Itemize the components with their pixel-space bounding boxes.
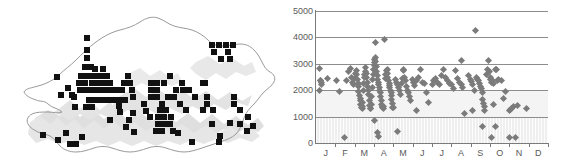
x-axis-tick — [509, 144, 510, 147]
distribution-map-panel — [0, 0, 280, 165]
gridline — [316, 90, 548, 91]
map-occurrence-marker — [170, 128, 176, 134]
map-occurrence-marker — [161, 114, 167, 120]
map-occurrence-marker — [189, 139, 195, 145]
map-occurrence-marker — [55, 137, 61, 143]
gridline — [316, 37, 548, 38]
x-tick-label: O — [493, 148, 507, 158]
map-occurrence-marker — [218, 56, 224, 62]
x-axis-tick — [529, 144, 530, 147]
y-tick-label: 5000 — [283, 7, 313, 16]
map-occurrence-marker — [210, 107, 216, 113]
x-axis-tick — [374, 144, 375, 147]
map-occurrence-marker — [123, 124, 129, 130]
map-occurrence-marker — [129, 87, 135, 93]
map-occurrence-marker — [54, 74, 60, 80]
map-occurrence-marker — [223, 42, 229, 48]
x-tick-label: S — [473, 148, 487, 158]
map-occurrence-marker — [58, 92, 64, 98]
scatter-point — [472, 27, 479, 34]
scatter-point — [316, 65, 323, 72]
figure-root: 010002000300040005000 JFMAMJJASOND — [0, 0, 561, 165]
map-occurrence-marker — [216, 139, 222, 145]
map-occurrence-marker — [130, 94, 136, 100]
map-occurrence-marker — [117, 109, 123, 115]
map-occurrence-marker — [227, 56, 233, 62]
x-axis-tick — [451, 144, 452, 147]
map-occurrence-marker — [130, 110, 136, 116]
map-occurrence-marker — [122, 97, 128, 103]
scatter-point — [333, 77, 340, 84]
map-occurrence-marker — [167, 73, 173, 79]
map-occurrence-marker — [250, 123, 256, 129]
map-occurrence-marker — [84, 47, 90, 53]
map-occurrence-marker — [84, 55, 90, 61]
map-occurrence-marker — [92, 66, 98, 72]
map-occurrence-marker — [167, 121, 173, 127]
map-occurrence-marker — [72, 104, 78, 110]
x-tick-label: A — [377, 148, 391, 158]
map-occurrence-marker — [230, 42, 236, 48]
map-occurrence-marker — [204, 94, 210, 100]
map-occurrence-marker — [209, 121, 215, 127]
map-occurrence-marker — [161, 80, 167, 86]
map-occurrence-marker — [73, 141, 79, 147]
map-occurrence-marker — [200, 107, 206, 113]
x-tick-label: A — [454, 148, 468, 158]
bhutan-map-svg — [0, 0, 280, 165]
x-axis-tick — [548, 144, 549, 147]
map-occurrence-marker — [231, 94, 237, 100]
x-tick-label: J — [415, 148, 429, 158]
x-tick-label: J — [435, 148, 449, 158]
map-occurrence-marker — [237, 121, 243, 127]
map-occurrence-marker — [131, 129, 137, 135]
scatter-point — [436, 81, 443, 88]
map-occurrence-marker — [84, 35, 90, 41]
map-occurrence-marker — [104, 73, 110, 79]
map-occurrence-marker — [65, 85, 71, 91]
x-axis-tick — [471, 144, 472, 147]
y-axis-tick-labels: 010002000300040005000 — [282, 0, 313, 165]
gridline — [316, 117, 548, 118]
map-occurrence-marker — [227, 120, 233, 126]
map-occurrence-marker — [141, 101, 147, 107]
map-occurrence-marker — [154, 87, 160, 93]
elevation-scatter-panel: 010002000300040005000 JFMAMJJASOND — [282, 0, 561, 165]
map-occurrence-marker — [225, 49, 231, 55]
map-occurrence-marker — [217, 133, 223, 139]
map-occurrence-marker — [89, 104, 95, 110]
y-tick-label: 4000 — [283, 33, 313, 42]
map-occurrence-marker — [209, 42, 215, 48]
map-occurrence-marker — [82, 64, 88, 70]
map-occurrence-marker — [147, 114, 153, 120]
map-occurrence-marker — [119, 87, 125, 93]
y-axis-line — [315, 10, 316, 144]
map-occurrence-marker — [127, 80, 133, 86]
map-occurrence-marker — [107, 117, 113, 123]
map-occurrence-marker — [171, 94, 177, 100]
x-tick-label: J — [319, 148, 333, 158]
x-axis-tick — [335, 144, 336, 147]
map-occurrence-marker — [125, 73, 131, 79]
map-occurrence-marker — [183, 107, 189, 113]
map-occurrence-marker — [154, 94, 160, 100]
y-tick-label: 2000 — [283, 86, 313, 95]
x-tick-label: F — [338, 148, 352, 158]
y-tick-label: 0 — [283, 139, 313, 148]
map-occurrence-marker — [202, 80, 208, 86]
scatter-point — [417, 66, 424, 73]
x-axis-tick — [490, 144, 491, 147]
y-tick-label: 1000 — [283, 113, 313, 122]
x-axis-tick — [355, 144, 356, 147]
x-tick-label: D — [531, 148, 545, 158]
map-occurrence-marker — [211, 49, 217, 55]
map-occurrence-marker — [100, 66, 106, 72]
map-occurrence-marker — [168, 114, 174, 120]
map-occurrence-marker — [107, 80, 113, 86]
map-occurrence-marker — [186, 87, 192, 93]
map-occurrence-marker — [82, 80, 88, 86]
scatter-point — [324, 75, 331, 82]
map-occurrence-marker — [63, 130, 69, 136]
scatter-point — [372, 39, 379, 46]
map-occurrence-marker — [71, 94, 77, 100]
